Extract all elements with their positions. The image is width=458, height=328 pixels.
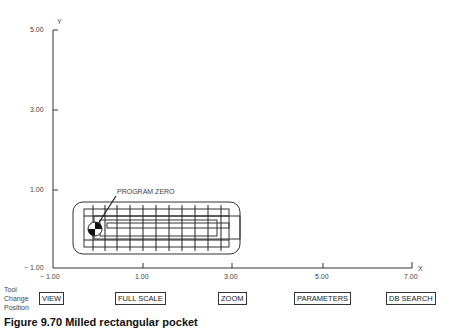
x-axis-label: X — [418, 265, 423, 272]
tool-change-position-label: Tool Change Position — [4, 285, 29, 312]
program-zero-label: PROGRAM ZERO — [117, 188, 175, 195]
x-tick-neg1: − 1.00 — [40, 273, 60, 280]
parameters-button[interactable]: PARAMETERS — [294, 292, 351, 305]
y-tick-3: 3.00 — [30, 106, 44, 113]
toolpath-passes — [84, 209, 240, 247]
x-tick-3: 3.00 — [224, 273, 238, 280]
x-tick-5: 5.00 — [315, 273, 329, 280]
zoom-button[interactable]: ZOOM — [218, 292, 247, 305]
program-zero-icon — [88, 222, 102, 236]
axes — [53, 30, 412, 268]
tool-change-line-2: Change — [4, 294, 29, 303]
db-search-button[interactable]: DB SEARCH — [386, 292, 436, 305]
tool-change-line-1: Tool — [4, 285, 29, 294]
y-tick-5: 5.00 — [30, 26, 44, 33]
y-tick-neg1: − 1.00 — [24, 264, 44, 271]
y-tick-1: 1.00 — [30, 186, 44, 193]
x-tick-7: 7.00 — [404, 273, 418, 280]
y-axis-label: Y — [57, 18, 62, 25]
x-tick-1: 1.00 — [135, 273, 149, 280]
view-button[interactable]: VIEW — [39, 292, 64, 305]
figure-caption: Figure 9.70 Milled rectangular pocket — [4, 316, 198, 328]
tool-change-line-3: Position — [4, 303, 29, 312]
full-scale-button[interactable]: FULL SCALE — [115, 292, 166, 305]
